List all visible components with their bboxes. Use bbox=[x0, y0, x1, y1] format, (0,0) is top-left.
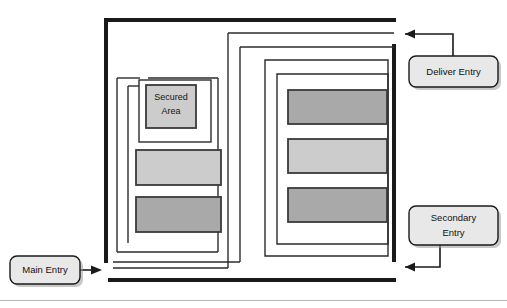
room-left-lower-shape bbox=[136, 197, 221, 232]
floor-plan-diagram: Secured Area bbox=[0, 0, 507, 308]
callout-secondary-entry-label-line2: Entry bbox=[442, 227, 464, 238]
room-secured-area[interactable]: Secured Area bbox=[146, 85, 196, 128]
callout-main-entry-label: Main Entry bbox=[22, 264, 68, 275]
callout-secondary-entry[interactable]: Secondary Entry bbox=[409, 206, 501, 248]
room-secured-area-label-line1: Secured bbox=[154, 92, 188, 102]
callout-secondary-entry-label-line1: Secondary bbox=[431, 212, 477, 223]
callout-deliver-entry-label: Deliver Entry bbox=[426, 66, 481, 77]
room-right-top[interactable] bbox=[288, 90, 387, 124]
room-secured-area-label-line2: Area bbox=[161, 106, 180, 116]
callout-main-entry[interactable]: Main Entry bbox=[10, 256, 83, 287]
room-right-bottom[interactable] bbox=[288, 188, 387, 222]
wall-left bbox=[104, 18, 108, 263]
floorplan-canvas: Secured Area bbox=[0, 0, 507, 308]
room-right-bottom-shape bbox=[288, 188, 387, 222]
room-left-upper[interactable] bbox=[136, 150, 221, 185]
room-right-top-shape bbox=[288, 90, 387, 124]
room-right-middle[interactable] bbox=[288, 139, 387, 173]
wall-right bbox=[392, 44, 396, 262]
room-left-lower[interactable] bbox=[136, 197, 221, 232]
room-left-upper-shape bbox=[136, 150, 221, 185]
wall-top bbox=[104, 18, 396, 22]
wall-bottom bbox=[108, 278, 396, 282]
callout-deliver-entry[interactable]: Deliver Entry bbox=[409, 56, 501, 90]
room-right-middle-shape bbox=[288, 139, 387, 173]
